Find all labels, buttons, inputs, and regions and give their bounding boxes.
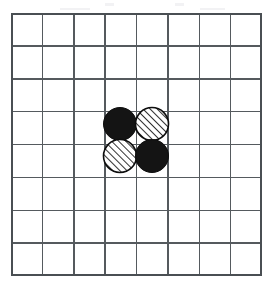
screenshot-root xyxy=(0,0,273,290)
scan-speck-3 xyxy=(60,8,90,10)
black-stone-top-left[interactable] xyxy=(104,108,137,141)
go-board[interactable] xyxy=(11,13,262,276)
scan-speck-1 xyxy=(105,3,114,6)
hatched-stone-bottom-left[interactable] xyxy=(104,140,137,173)
hatched-stone-top-right[interactable] xyxy=(136,108,169,141)
scan-speck-4 xyxy=(200,8,225,10)
black-stone-bottom-right[interactable] xyxy=(136,140,169,173)
scan-speck-2 xyxy=(175,3,184,6)
board-canvas[interactable] xyxy=(11,13,262,276)
